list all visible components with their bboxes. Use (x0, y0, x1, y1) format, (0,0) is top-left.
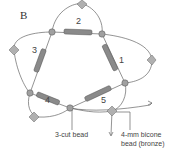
bugle-beads (34, 29, 119, 105)
loop-number-5: 5 (101, 96, 106, 105)
bicone-label-line1: 4-mm bicone (121, 130, 161, 139)
bicone-label-line2: bead (bronze) (121, 139, 165, 148)
loop-number-2: 2 (76, 17, 81, 26)
loop-number-3: 3 (32, 46, 37, 55)
panel-label: B (20, 9, 27, 21)
loop-number-4: 4 (45, 96, 50, 105)
loop-number-1: 1 (119, 56, 124, 65)
three-cut-bead-label: 3-cut bead (55, 130, 88, 139)
bicone-beads (9, 0, 156, 122)
